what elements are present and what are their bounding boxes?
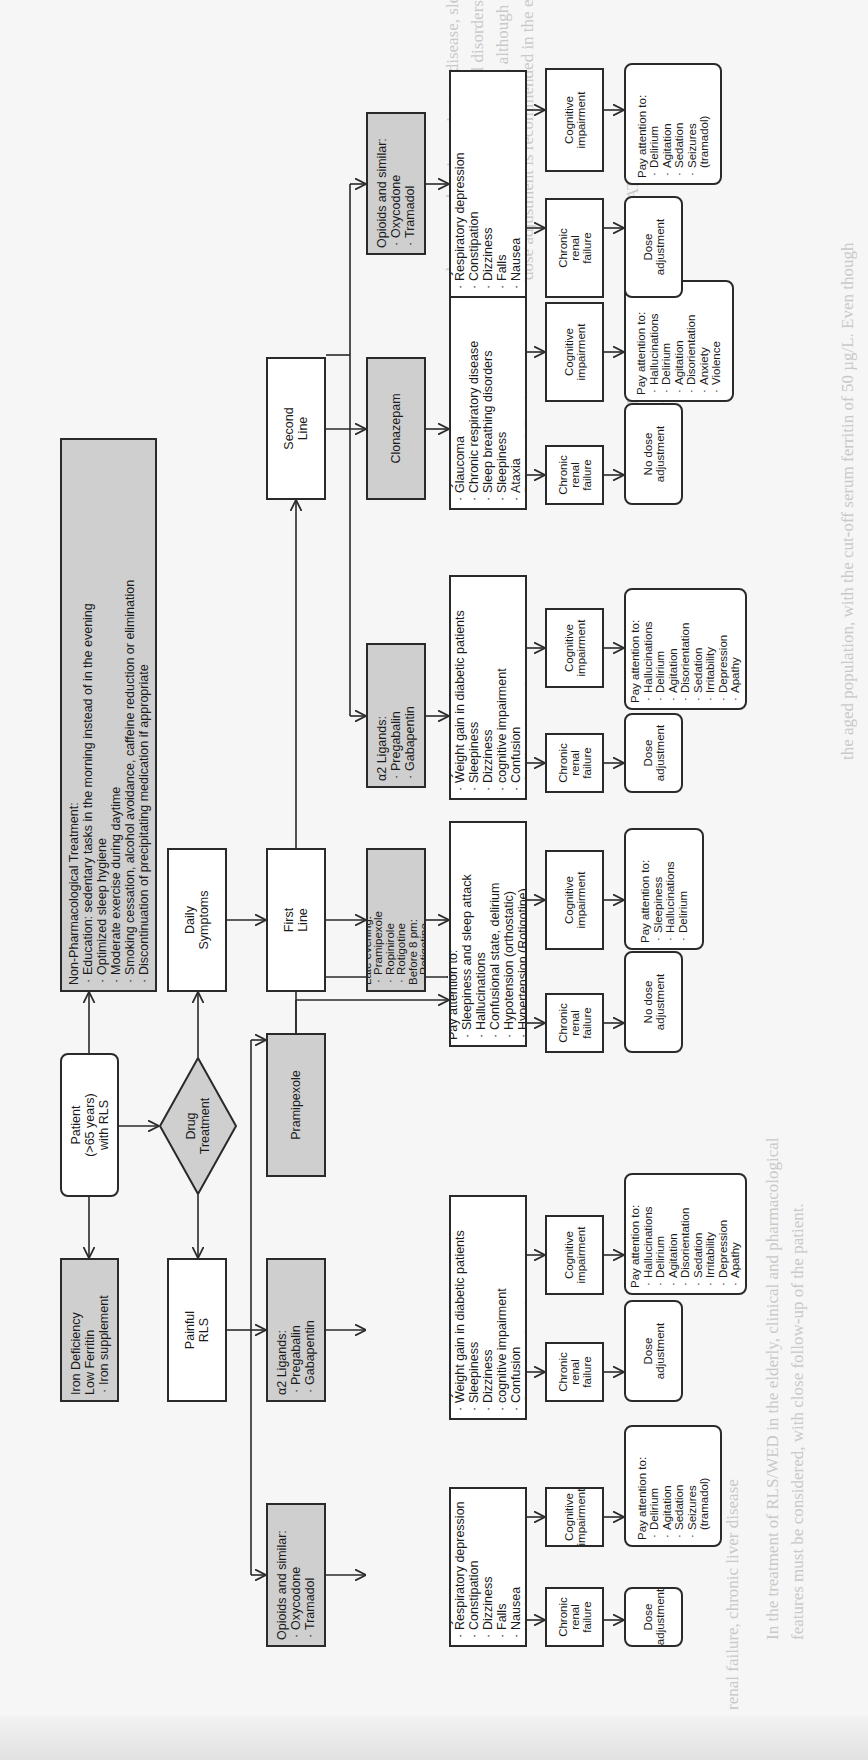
renal-line: Chronic: [557, 1352, 569, 1392]
no-dose-adjustment-outcome: No dose adjustment: [624, 951, 683, 1053]
renal-line: failure: [581, 1007, 593, 1038]
attention-item: Delirium: [654, 595, 667, 703]
attention-box-alpha2-painful: Pay attention to: Weight gain in diabeti…: [449, 1195, 527, 1420]
attention-item: Cardiovascular adverse events: [523, 1202, 527, 1413]
painful-rls-box: Painful RLS: [167, 1258, 227, 1402]
outcome-line: adjustment: [654, 974, 666, 1030]
cognitive-attention-outcome: Pay attention to: Hallucinations Deliriu…: [624, 280, 734, 402]
second-line-line: Line: [296, 417, 310, 441]
dose-adjustment-outcome: Dose adjustment: [624, 1300, 683, 1402]
patient-box: Patient (>65 years) with RLS: [60, 1053, 119, 1197]
drug-treatment-decision: Drug Treatment: [159, 1057, 237, 1195]
attention-item: Apathy: [729, 595, 742, 703]
outcome-line: adjustment: [654, 219, 666, 275]
attention-item: Cardiovascular adverse events: [523, 582, 527, 793]
attention-item: Sleepiness and sleep attack: [460, 828, 474, 1040]
attention-item: Seizures (tramadol): [686, 1432, 711, 1540]
first-line-line: Line: [296, 908, 310, 932]
renal-line: Chronic: [557, 228, 569, 268]
non-pharmacological-item: Moderate exercise during daytime: [109, 445, 123, 985]
attention-title: Pay attention to:: [449, 828, 460, 1040]
attention-item: Constipation: [467, 77, 481, 291]
cognitive-impairment-box: Cognitive impairment: [545, 68, 604, 172]
attention-item: Anxiety: [698, 287, 711, 395]
cognitive-impairment-box: Cognitive impairment: [545, 1487, 604, 1547]
attention-item: Constipation: [467, 1494, 481, 1640]
renal-line: Chronic: [557, 1003, 569, 1043]
daily-symptoms-box: Daily Symptoms: [167, 848, 227, 992]
patient-line: with RLS: [97, 1100, 111, 1150]
opioids-box-second-line: Opioids and similar: Oxycodone Tramadol: [366, 112, 426, 255]
opioids-title: Opioids and similar:: [375, 119, 389, 248]
attention-item: Nausea: [509, 77, 523, 291]
alpha2-item: Pregabalin: [289, 1265, 303, 1395]
attention-item: Depression: [717, 595, 730, 703]
attention-item: Chronic respiratory disease: [467, 289, 481, 503]
non-pharmacological-item: Discontinuation of precipitating medicat…: [137, 445, 151, 985]
cognitive-line: impairment: [575, 620, 587, 677]
attention-item: Dizziness: [481, 1494, 495, 1640]
patient-line: (>65 years): [83, 1093, 97, 1157]
attention-item: Hallucinations: [664, 835, 677, 943]
outcome-line: adjustment: [654, 1589, 666, 1645]
alpha2-ligands-box-second-line: α2 Ligands: Pregabalin Gabapentin: [366, 643, 426, 788]
attention-item: Hallucinations: [648, 287, 661, 395]
attention-item: Irritability: [704, 1180, 717, 1288]
renal-failure-box: Chronic renal failure: [545, 1587, 604, 1647]
attention-box-alpha2-second-line: Pay attention to: Weight gain in diabeti…: [449, 575, 527, 800]
attention-title: Pay attention to:: [635, 287, 648, 395]
clonazepam-label: Clonazepam: [389, 393, 403, 463]
attention-item: Glaucoma: [453, 289, 467, 503]
attention-item: Confusional state, delirium: [488, 828, 502, 1040]
alpha2-title: α2 Ligands:: [275, 1265, 289, 1395]
attention-title: Pay attention to:: [636, 70, 649, 178]
rls-elderly-treatment-flowchart: Iron Deficiency Low Ferritin Iron supple…: [0, 0, 868, 1760]
attention-item: cognitive impairment: [495, 582, 509, 793]
daily-symptoms-line: Symptoms: [197, 890, 211, 949]
dose-adjustment-outcome: Dose adjustment: [624, 713, 683, 793]
alpha2-item: Gabapentin: [403, 650, 417, 781]
renal-line: renal: [569, 1359, 581, 1385]
renal-failure-box: Chronic renal failure: [545, 993, 604, 1053]
attention-item: Irritability: [704, 595, 717, 703]
attention-item: Disorientation: [685, 287, 698, 395]
iron-deficiency-title: Iron Deficiency: [69, 1265, 83, 1395]
cognitive-line: Cognitive: [563, 1493, 575, 1541]
pramipexole-label: Pramipexole: [289, 1070, 303, 1139]
outcome-line: Dose: [642, 234, 654, 261]
outcome-line: Dose: [642, 740, 654, 767]
renal-failure-box: Chronic renal failure: [545, 733, 604, 793]
dose-adjustment-outcome: Dose adjustment: [624, 1587, 683, 1647]
outcome-line: No dose: [642, 433, 654, 476]
cognitive-line: impairment: [575, 872, 587, 929]
renal-line: failure: [581, 232, 593, 263]
outcome-line: adjustment: [654, 725, 666, 781]
attention-item: Agitation: [661, 70, 674, 178]
attention-item: Disorientation: [679, 1180, 692, 1288]
attention-item: Dizziness: [481, 1202, 495, 1413]
attention-box-opioids-second-line: Pay attention to: Respiratory depression…: [449, 70, 527, 298]
dopaminergic-item: Rotigotine: [419, 855, 426, 985]
dopaminergic-box: Late evening: Pramipexole Ropinirole Rot…: [366, 848, 426, 992]
attention-item: Depression: [717, 1180, 730, 1288]
attention-item: Agitation: [661, 1432, 674, 1540]
attention-item: Delirium: [654, 1180, 667, 1288]
renal-line: renal: [569, 462, 581, 488]
attention-title: Pay attention to:: [629, 1180, 642, 1288]
outcome-line: No dose: [642, 981, 654, 1024]
attention-item: Agitation: [667, 595, 680, 703]
alpha2-item: Pregabalin: [389, 650, 403, 781]
drug-treatment-line: Drug: [184, 1112, 198, 1139]
attention-box-dopaminergic: Pay attention to: Sleepiness and sleep a…: [449, 821, 527, 1047]
non-pharmacological-title: Non-Pharmacological Treatment:: [67, 445, 81, 985]
attention-item: Weight gain in diabetic patients: [453, 1202, 467, 1413]
attention-item: Sleepiness: [495, 289, 509, 503]
cognitive-attention-outcome: Pay attention to: Hallucinations Deliriu…: [624, 1173, 747, 1295]
pramipexole-box: Pramipexole: [266, 1033, 326, 1177]
attention-item: Disorientation: [679, 595, 692, 703]
cognitive-line: Cognitive: [563, 1231, 575, 1279]
opioids-box-painful: Opioids and similar: Oxycodone Tramadol: [266, 1503, 326, 1647]
attention-item: Sedation: [673, 70, 686, 178]
attention-item: Hypotension (orthostatic): [502, 828, 516, 1040]
attention-item: Apathy: [729, 1180, 742, 1288]
